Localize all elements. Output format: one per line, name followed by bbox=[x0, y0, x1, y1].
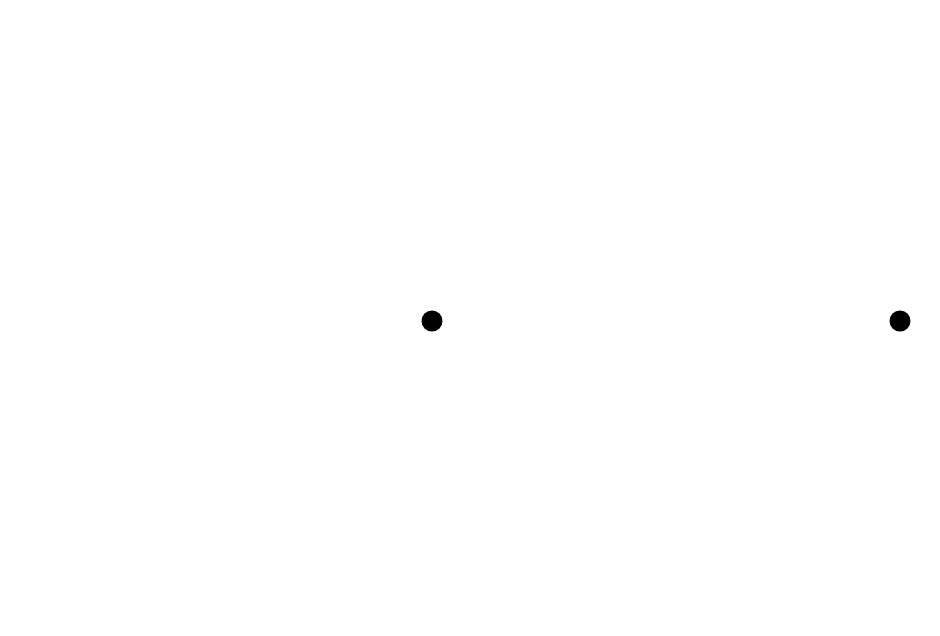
blank-canvas bbox=[0, 0, 940, 636]
black-dot-left bbox=[422, 311, 443, 332]
black-dot-right bbox=[890, 311, 911, 332]
